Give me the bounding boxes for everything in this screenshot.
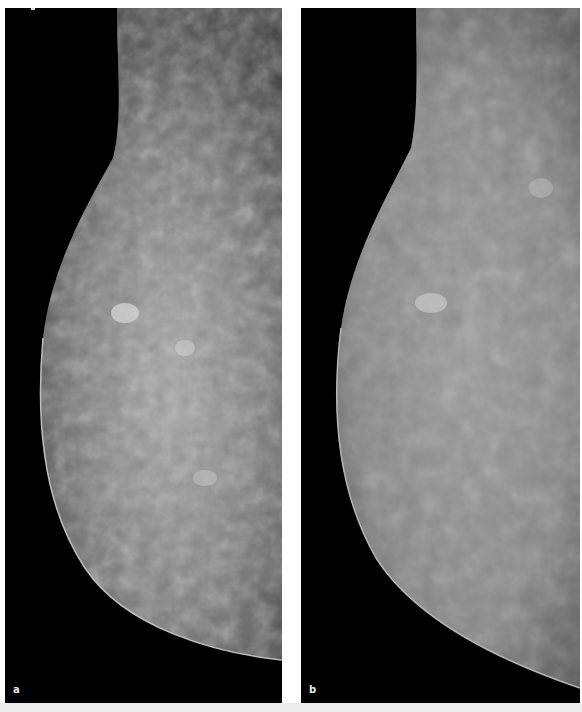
breast-tissue-image-a [5,8,282,703]
panel-label-b: b [309,684,316,695]
breast-tissue-image-b [301,8,580,703]
mammogram-panel-b: b [301,8,580,703]
bottom-margin [0,703,582,712]
corner-marker [31,8,35,10]
panel-label-a: a [13,684,20,695]
mammogram-panel-a: a [5,8,282,703]
